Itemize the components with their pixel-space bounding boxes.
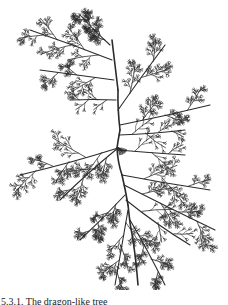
figure-caption: 5.3.1. The dragon-like tree: [1, 297, 107, 305]
tree-branches: [9, 8, 217, 290]
tree-diagram: [0, 0, 228, 290]
